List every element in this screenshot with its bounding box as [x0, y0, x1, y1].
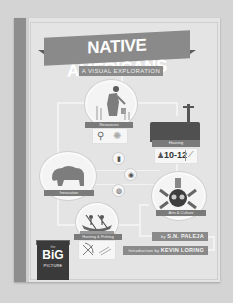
woman-gathering-icon: [87, 82, 135, 126]
connector-line: [139, 204, 149, 206]
author-bar: by S.N. PALEJA: [152, 232, 208, 241]
longhouse-icon: [150, 122, 200, 142]
resources-icons: ⚲ ✺: [92, 128, 128, 144]
resources-illustration: [85, 80, 137, 128]
connector-line: [90, 184, 160, 185]
badge-main-text: BiG: [37, 249, 69, 261]
bottle-icon: ▮: [112, 152, 125, 165]
totem-arms: [183, 106, 194, 108]
connector-line: [139, 235, 153, 237]
author-name: S.N. PALEJA: [167, 233, 204, 239]
connector-line: [138, 102, 178, 104]
connector-line: [57, 102, 87, 104]
housing-badge-value: 10-12: [164, 150, 187, 160]
bow-arrow-icon: [79, 241, 115, 259]
big-picture-badge: the BiG PICTURE: [37, 241, 69, 280]
housing-badge: ♟ 10-12 ⟋: [154, 148, 198, 164]
fish-icon: ◉: [124, 168, 137, 181]
person-icon: ♟: [157, 151, 164, 160]
spine-edge: [26, 18, 29, 282]
connector-line: [176, 102, 178, 116]
innovation-label: Innovation: [44, 190, 94, 196]
feather-icon: ⟋: [188, 150, 194, 160]
housing-label: Housing: [152, 140, 200, 147]
basket-icon: ◍: [112, 184, 125, 197]
introduction-bar: Introduction by KEVIN LORING: [123, 246, 208, 255]
connector-line: [139, 204, 141, 236]
mortar-pestle-icon: ⚲: [97, 130, 104, 141]
connector-line: [57, 102, 59, 160]
badge-bottom-text: PICTURE: [37, 263, 69, 268]
book-title: NATIVE AMERICANS: [44, 32, 190, 84]
arts-culture-label: Arts & Culture: [156, 210, 206, 216]
hunting-fishing-icons: [78, 240, 116, 260]
connector-line: [57, 196, 59, 226]
intro-prefix: Introduction by: [129, 248, 161, 253]
cover-spine: [14, 18, 26, 282]
divider: [185, 150, 186, 161]
book-subtitle: A VISUAL EXPLORATION: [79, 66, 163, 76]
connector-line: [213, 236, 215, 250]
connector-line: [207, 249, 215, 251]
intro-author: KEVIN LORING: [161, 247, 204, 253]
sun-icon: ✺: [113, 130, 121, 141]
